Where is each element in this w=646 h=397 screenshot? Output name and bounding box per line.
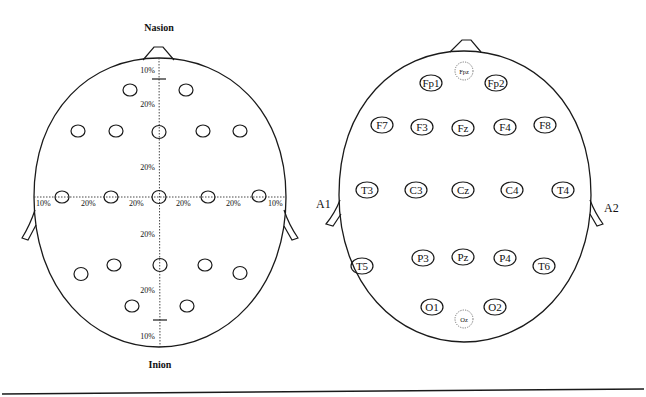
electrode-marker bbox=[107, 259, 121, 271]
electrode-t4-label: T4 bbox=[557, 184, 570, 196]
bottom-divider bbox=[2, 389, 644, 394]
eeg-10-20-diagram: Nasion 10% 20% 20% 20% 20% 10% 10% 20% 2… bbox=[0, 0, 646, 397]
right-head-diagram: A1 A2 Fpz Oz bbox=[316, 40, 619, 342]
a2-ear-label: A2 bbox=[604, 201, 619, 215]
electrode-marker bbox=[196, 125, 210, 137]
electrode-fz-label: Fz bbox=[458, 122, 469, 134]
electrode-marker bbox=[198, 259, 212, 271]
pct-label: 20% bbox=[140, 100, 155, 109]
electrode-oz-label: Oz bbox=[460, 316, 468, 323]
electrode-c4-label: C4 bbox=[506, 184, 519, 196]
right-ear-icon bbox=[590, 200, 603, 226]
pct-label: 20% bbox=[140, 163, 155, 172]
electrode-marker bbox=[109, 125, 123, 137]
electrode-o2-label: O2 bbox=[488, 301, 501, 313]
electrode-marker bbox=[180, 300, 194, 312]
electrode-fp1-label: Fp1 bbox=[422, 77, 439, 89]
electrode-marker bbox=[125, 300, 139, 312]
electrode-marker bbox=[179, 84, 193, 96]
pct-label: 10% bbox=[268, 199, 283, 208]
right-ear-icon bbox=[284, 210, 298, 240]
electrode-f8-label: F8 bbox=[539, 119, 551, 131]
electrode-f4-label: F4 bbox=[499, 121, 511, 133]
electrode-marker bbox=[233, 125, 247, 137]
electrode-marker bbox=[71, 125, 85, 137]
a1-ear-label: A1 bbox=[316, 197, 331, 211]
electrode-f7-label: F7 bbox=[376, 119, 388, 131]
electrode-cz-label: Cz bbox=[457, 184, 469, 196]
electrode-t6-label: T6 bbox=[538, 260, 551, 272]
electrode-f3-label: F3 bbox=[416, 121, 428, 133]
head-outline bbox=[339, 51, 591, 342]
pct-label: 20% bbox=[129, 199, 144, 208]
electrode-p4-label: P4 bbox=[499, 252, 511, 264]
pct-label: 20% bbox=[140, 230, 155, 239]
nose-icon bbox=[450, 40, 481, 52]
head-outline bbox=[34, 58, 286, 347]
pct-label: 10% bbox=[140, 332, 155, 341]
electrode-fpz-label: Fpz bbox=[459, 68, 469, 75]
electrode-marker bbox=[252, 190, 266, 202]
pct-label: 10% bbox=[140, 66, 155, 75]
inion-label: Inion bbox=[149, 359, 172, 370]
left-head-diagram: Nasion 10% 20% 20% 20% 20% 10% 10% 20% 2… bbox=[22, 22, 298, 370]
left-electrode-group bbox=[55, 84, 266, 312]
pct-label: 20% bbox=[81, 199, 96, 208]
electrode-marker bbox=[233, 267, 247, 280]
nasion-label: Nasion bbox=[144, 22, 174, 33]
electrode-c3-label: C3 bbox=[410, 184, 423, 196]
electrode-marker bbox=[123, 84, 137, 96]
electrode-p3-label: P3 bbox=[417, 252, 429, 264]
electrode-t5-label: T5 bbox=[356, 260, 369, 272]
electrode-o1-label: O1 bbox=[425, 301, 438, 313]
electrode-marker bbox=[74, 268, 88, 281]
pct-label: 10% bbox=[36, 199, 51, 208]
electrode-pz-label: Pz bbox=[458, 251, 469, 263]
left-ear-icon bbox=[22, 210, 36, 240]
electrode-t3-label: T3 bbox=[361, 184, 374, 196]
pct-label: 20% bbox=[140, 286, 155, 295]
sagittal-midline bbox=[159, 58, 160, 347]
electrode-fp2-label: Fp2 bbox=[487, 77, 504, 89]
pct-label: 20% bbox=[176, 199, 191, 208]
pct-label: 20% bbox=[226, 199, 241, 208]
